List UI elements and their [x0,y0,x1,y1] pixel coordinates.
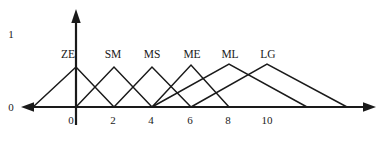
mf-label-me: ME [183,48,200,60]
fuzzy-membership-chart: 1 0 0 2 4 6 8 10 ZE SM MS ME ML LG [0,0,382,141]
mf-label-ml: ML [221,48,238,60]
mf-label-ze: ZE [61,48,75,60]
membership-curve-ze [33,67,114,107]
y-tick-label-0: 0 [8,101,14,113]
mf-label-sm: SM [105,48,122,60]
up-arrow-icon [71,9,80,23]
mf-label-ms: MS [144,48,161,60]
y-tick-label-1: 1 [8,28,14,40]
x-tick-label-2: 2 [110,114,116,126]
x-tick-label-8: 8 [225,114,231,126]
x-tick-label-0: 0 [68,114,74,126]
membership-curve-ms [114,67,191,107]
x-tick-label-6: 6 [187,114,193,126]
x-tick-label-10: 10 [262,114,274,126]
membership-curve-sm [76,67,152,107]
left-arrow-icon [21,102,34,112]
mf-label-lg: LG [260,48,275,60]
chart-canvas: 1 0 0 2 4 6 8 10 ZE SM MS ME ML LG [0,0,382,141]
right-arrow-icon [363,102,376,112]
x-tick-label-4: 4 [148,114,154,126]
